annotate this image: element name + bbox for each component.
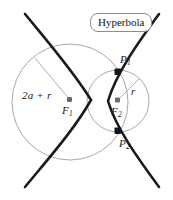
- label-r: r: [131, 87, 135, 98]
- label-point-1: P1: [120, 54, 131, 66]
- label-focus-2-subscript: 2: [118, 110, 122, 119]
- focus-1-point: [67, 97, 72, 102]
- hyperbola-callout-label: Hyperbola: [90, 13, 152, 32]
- focus-2-point: [115, 98, 120, 103]
- label-focus-2: F2: [111, 106, 122, 118]
- label-point-1-subscript: 1: [127, 58, 131, 67]
- intersection-point-1: [115, 69, 122, 76]
- intersection-point-2: [115, 128, 122, 135]
- hyperbola-figure: 2a + r r F1 F2 P1 P2 Hyperbola: [0, 0, 173, 200]
- label-focus-1: F1: [62, 105, 73, 117]
- label-point-2-letter: P: [119, 137, 126, 149]
- label-point-1-letter: P: [120, 53, 127, 65]
- label-focus-1-letter: F: [62, 104, 69, 116]
- label-point-2: P2: [119, 138, 130, 150]
- radius-segment-r: [118, 79, 140, 101]
- label-focus-1-subscript: 1: [69, 109, 73, 118]
- label-2a-plus-r: 2a + r: [22, 90, 51, 101]
- label-focus-2-letter: F: [111, 105, 118, 117]
- label-point-2-subscript: 2: [126, 142, 130, 151]
